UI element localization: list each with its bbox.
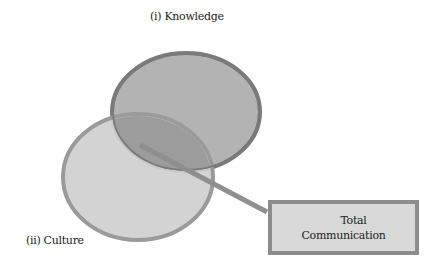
box-text-line2: Communication bbox=[301, 228, 385, 243]
culture-label: (ii) Culture bbox=[26, 234, 84, 247]
box-text-line1: Total bbox=[320, 213, 366, 228]
knowledge-label: (i) Knowledge bbox=[150, 10, 224, 23]
total-communication-box: Total Communication bbox=[268, 200, 419, 255]
